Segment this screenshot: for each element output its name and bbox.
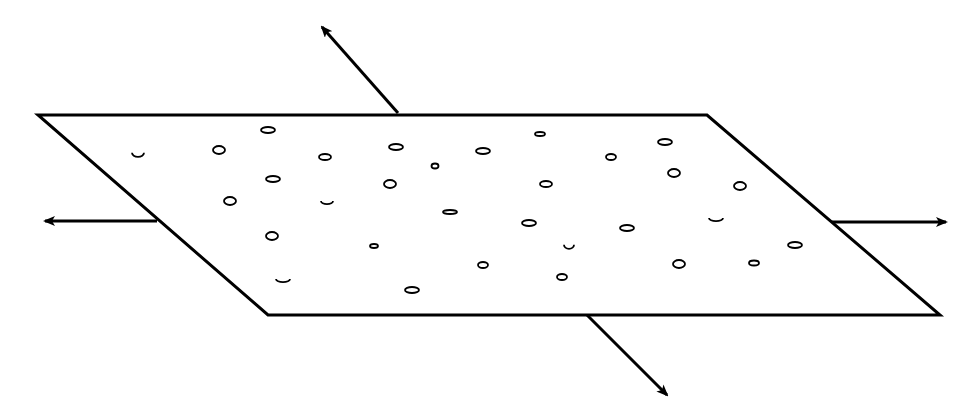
diagram-canvas	[0, 0, 977, 413]
stretched-plane-diagram	[0, 0, 977, 413]
arrow-down-right-icon	[587, 315, 667, 395]
arrow-up-left-icon	[322, 27, 398, 113]
plane-parallelogram	[38, 115, 940, 315]
